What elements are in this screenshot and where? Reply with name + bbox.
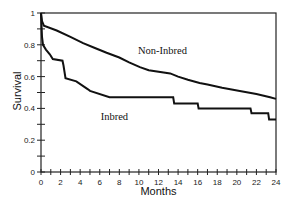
y-tick-label: 1 [31,9,36,18]
x-axis-label: Months [140,185,177,197]
survival-chart: 02468101214161820222400.20.40.60.81 Non-… [0,0,292,207]
y-tick-label: 0.8 [24,41,36,50]
x-tick-label: 20 [232,178,241,187]
x-tick-label: 24 [272,178,281,187]
x-tick-label: 0 [39,178,44,187]
survival-curves [41,13,276,120]
y-tick-label: 0.6 [24,73,36,82]
x-tick-label: 4 [78,178,83,187]
x-tick-label: 16 [193,178,202,187]
y-tick-label: 0.2 [24,136,36,145]
y-tick-label: 0.4 [24,104,36,113]
plot-border [41,13,276,172]
curve-inbred [41,13,276,120]
y-axis-label: Survival [11,71,23,110]
label-non-inbred: Non-Inbred [138,45,188,56]
series-labels: Non-InbredInbred [101,45,188,121]
plot-frame [41,13,276,172]
x-tick-label: 6 [98,178,103,187]
label-inbred: Inbred [101,111,129,122]
x-tick-label: 22 [252,178,261,187]
y-tick-label: 0 [31,168,36,177]
x-tick-label: 18 [213,178,222,187]
x-tick-label: 8 [117,178,122,187]
x-tick-label: 2 [58,178,63,187]
